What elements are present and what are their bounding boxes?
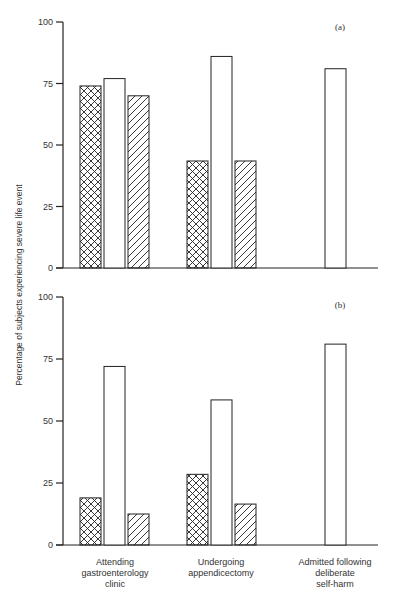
y-tick-label: 50 <box>43 416 53 426</box>
y-axis-label: Percentage of subjects experiencing seve… <box>14 184 24 386</box>
bar-open <box>104 79 125 268</box>
bar-crosshatched <box>80 498 101 545</box>
y-tick-label: 100 <box>38 292 53 302</box>
bar-hatched <box>128 96 149 268</box>
y-tick-label: 75 <box>43 79 53 89</box>
y-tick-label: 0 <box>48 540 53 550</box>
y-tick-label: 50 <box>43 140 53 150</box>
y-tick-label: 0 <box>48 263 53 273</box>
bar-open <box>325 69 346 268</box>
category-label-appendicectomy: Undergoing appendicectomy <box>166 557 276 579</box>
bar-hatched <box>235 504 256 545</box>
y-tick-label: 25 <box>43 202 53 212</box>
panel-a: 0255075100(a) <box>38 17 378 273</box>
bar-hatched <box>235 161 256 268</box>
category-label-gastroenterology: Attending gastroenterology clinic <box>60 557 170 590</box>
bar-chart: 0255075100(a) 0255075100(b) Percentage o… <box>0 0 395 603</box>
bar-open <box>325 344 346 545</box>
bar-open <box>211 56 232 268</box>
y-tick-label: 25 <box>43 478 53 488</box>
y-tick-label: 100 <box>38 17 53 27</box>
bar-open <box>104 366 125 545</box>
y-tick-label: 75 <box>43 354 53 364</box>
panel-b: 0255075100(b) <box>38 292 378 550</box>
bar-hatched <box>128 514 149 545</box>
panel-label: (a) <box>335 22 345 32</box>
bar-open <box>211 400 232 545</box>
bar-crosshatched <box>187 161 208 268</box>
bar-crosshatched <box>80 86 101 268</box>
category-label-self-harm: Admitted following deliberate self-harm <box>280 557 390 590</box>
panel-label: (b) <box>335 300 346 310</box>
bar-crosshatched <box>187 474 208 545</box>
